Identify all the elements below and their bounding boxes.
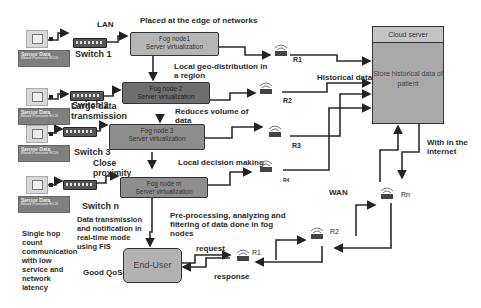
switch-1-label: Switch 1 — [75, 50, 112, 59]
fog-node-2: Fog node 2Server virtualization — [122, 82, 210, 104]
fog-node-m: Fog node mServer virtualization — [120, 177, 208, 198]
router-icon — [308, 225, 326, 241]
switch-n-label: Switch n — [82, 202, 119, 211]
preprocessing-label: Pre-processing, analyzing and filtering … — [170, 211, 298, 238]
router-icon — [234, 247, 252, 263]
sensor-data-panel: Sensor DataBlood Pressure ECG — [18, 50, 70, 67]
sensor-data-panel: Sensor DataBlood Pressure ECG — [18, 196, 70, 213]
local-decision-label: Local decision making — [178, 158, 264, 167]
switch-icon — [73, 38, 107, 48]
historical-data-label: Historical data — [317, 73, 372, 82]
good-qos-label: Good QoS — [83, 268, 123, 277]
single-hop-label: Single hop count communication with low … — [22, 229, 78, 292]
cloud-server-body: Store historical data of patient — [373, 43, 443, 89]
router-icon — [257, 158, 275, 174]
reduces-volume-label: Reduces volume of data — [175, 107, 250, 125]
monitor-icon — [26, 30, 48, 48]
cloud-server-title: Cloud server — [373, 27, 443, 43]
switch-icon — [63, 180, 97, 190]
cloud-server-box: Cloud server Store historical data of pa… — [372, 26, 444, 124]
router-label-rn: Rn — [401, 190, 410, 199]
edge-label: Placed at the edge of networks — [140, 16, 257, 25]
monitor-icon — [26, 125, 48, 143]
router-label-r3: R3 — [292, 141, 301, 150]
geo-distribution-label: Local geo-distribution in a region — [174, 62, 270, 80]
router-label-r2: R2 — [283, 96, 292, 105]
lan-label: LAN — [97, 20, 113, 29]
fog-node-3: Fog node 3Server virtualization — [109, 124, 205, 150]
monitor-icon — [26, 176, 48, 194]
sensor-data-panel: Sensor DataBlood Pressure ECG — [18, 145, 70, 162]
within-internet-label: With in the internet — [427, 138, 479, 156]
switch-3-label: Switch 3 — [74, 148, 111, 157]
sensor-data-panel: Sensor DataBlood Pressure ECG — [18, 108, 70, 125]
end-user-box: End-User — [123, 248, 182, 283]
switch-2-label: Switch 2 — [72, 101, 109, 110]
close-proximity-label: Close proximity — [93, 158, 133, 178]
sensor-device-1: Sensor DataBlood Pressure ECG — [18, 30, 73, 67]
request-label: request — [196, 244, 225, 253]
router-label-r1: R1 — [293, 55, 302, 64]
data-transmission-label: Data transmission and notification in re… — [77, 215, 149, 251]
sensor-device-2: Sensor DataBlood Pressure ECG — [18, 88, 73, 125]
wan-label: WAN — [329, 188, 348, 197]
router-icon — [266, 123, 284, 139]
switch-icon — [63, 127, 97, 137]
router-label-r4: R4 — [283, 176, 289, 185]
fog-node-1: Fog node1Server virtualization — [130, 32, 219, 56]
monitor-icon — [26, 88, 48, 106]
router-icon — [257, 80, 275, 96]
router-label-r1-wan: R1 — [252, 248, 261, 257]
router-icon — [378, 185, 396, 201]
response-label: response — [214, 272, 250, 281]
router-icon — [272, 42, 290, 58]
router-label-r2-wan: R2 — [330, 227, 339, 236]
